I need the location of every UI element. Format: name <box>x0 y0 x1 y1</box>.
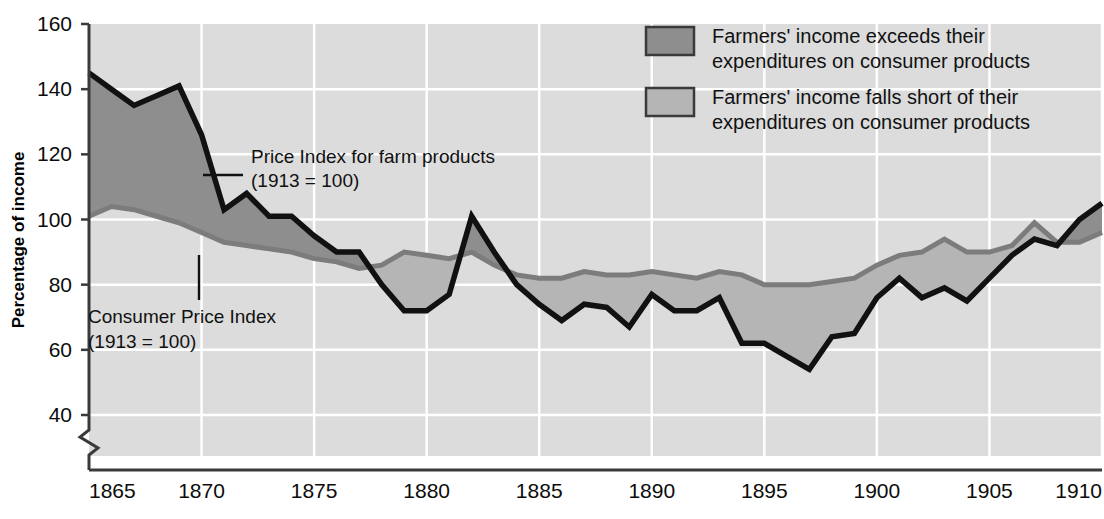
y-tick-label-80: 80 <box>49 273 72 296</box>
y-tick-label-140: 140 <box>37 77 72 100</box>
farm-income-price-index-chart: 160140120100806040 186518701875188018851… <box>0 0 1104 519</box>
x-tick-label-1880: 1880 <box>403 479 450 502</box>
y-tick-label-60: 60 <box>49 338 72 361</box>
x-tick-label-1910: 1910 <box>1055 479 1102 502</box>
y-tick-label-40: 40 <box>49 403 72 426</box>
farm-price-annotation-line1: Price Index for farm products <box>251 146 495 167</box>
y-tick-label-100: 100 <box>37 208 72 231</box>
legend-swatch-falls-short <box>646 88 694 116</box>
y-tick-label-160: 160 <box>37 12 72 35</box>
legend-label-falls-short-line1: Farmers' income falls short of their <box>712 86 1018 108</box>
legend-label-falls-short-line2: expenditures on consumer products <box>712 111 1030 133</box>
x-tick-label-1875: 1875 <box>291 479 338 502</box>
consumer-price-annotation-line1: Consumer Price Index <box>88 306 276 327</box>
x-tick-label-1870: 1870 <box>178 479 225 502</box>
y-axis-tick-labels: 160140120100806040 <box>37 12 72 426</box>
chart-figure: 160140120100806040 186518701875188018851… <box>0 0 1104 519</box>
legend-label-exceeds-line1: Farmers' income exceeds their <box>712 25 985 47</box>
x-tick-label-1865: 1865 <box>89 479 136 502</box>
consumer-price-annotation-line2: (1913 = 100) <box>88 331 196 352</box>
legend-label-exceeds-line2: expenditures on consumer products <box>712 50 1030 72</box>
x-tick-label-1885: 1885 <box>516 479 563 502</box>
x-tick-label-1890: 1890 <box>628 479 675 502</box>
y-tick-label-120: 120 <box>37 142 72 165</box>
x-tick-label-1905: 1905 <box>966 479 1013 502</box>
x-tick-label-1895: 1895 <box>741 479 788 502</box>
x-tick-label-1900: 1900 <box>854 479 901 502</box>
legend-swatch-exceeds <box>646 27 694 55</box>
x-axis-tick-labels: 1865187018751880188518901895190019051910 <box>89 479 1102 502</box>
farm-price-annotation-line2: (1913 = 100) <box>251 170 359 191</box>
y-axis-title: Percentage of income <box>9 152 28 329</box>
